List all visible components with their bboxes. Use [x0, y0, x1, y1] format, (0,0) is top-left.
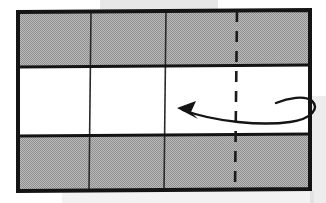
origami-fold-diagram	[0, 0, 326, 203]
fold-diagram-canvas	[0, 0, 326, 203]
crease-horizontal-upper	[18, 65, 310, 67]
scan-shadow-bottom-artifact	[62, 191, 314, 203]
crease-horizontal-lower	[18, 134, 310, 136]
top-shaded-band	[18, 10, 310, 67]
